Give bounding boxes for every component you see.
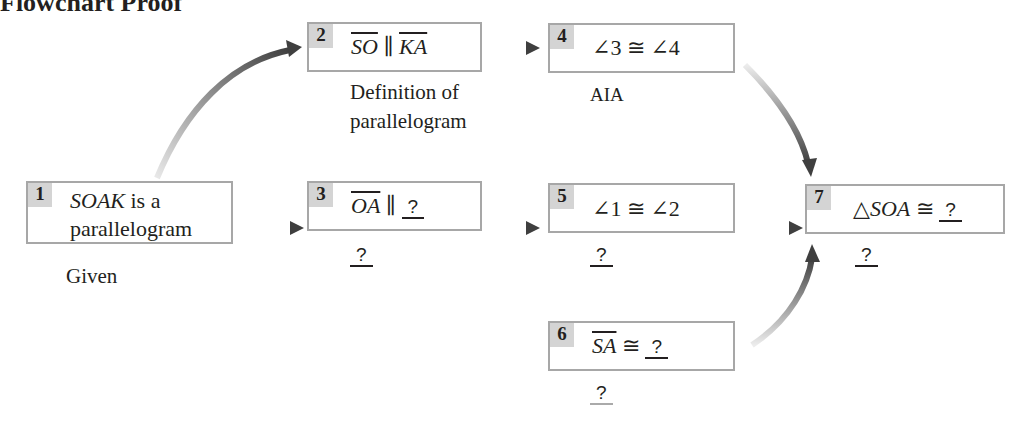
node-number: 2 [309,24,333,48]
node-number: 5 [550,185,574,209]
reason-blank[interactable]: ? [350,245,373,267]
answer-blank[interactable]: ? [939,200,962,222]
node-statement: SO ∥ KA [351,34,427,60]
node-6: 6 SA ≅ ? [548,321,735,371]
node-number: 6 [550,323,574,347]
node-number: 4 [550,25,574,49]
node-number: 7 [807,186,831,210]
reason-blank[interactable]: ? [590,245,613,267]
node-7-reason: ? [855,240,878,269]
node-statement: △SOA ≅ ? [853,196,962,222]
node-1: 1 SOAK is a parallelogram [26,181,233,244]
node-2: 2 SO ∥ KA [307,22,482,72]
node-6-reason: ? [590,378,613,407]
node-5-reason: ? [590,240,613,269]
node-4-reason: AIA [590,80,624,109]
reason-blank[interactable]: ? [590,383,613,405]
node-1-reason: Given [66,262,117,291]
node-3-reason: ? [350,240,373,269]
arrow-4-to-7 [745,65,808,163]
node-statement: OA ∥ ? [351,193,424,219]
arrow-6-to-7 [752,258,812,345]
node-number: 1 [28,183,52,207]
node-statement: SOAK is a parallelogram [70,187,192,243]
node-7: 7 △SOA ≅ ? [805,184,1005,234]
node-3: 3 OA ∥ ? [307,181,482,231]
node-statement: ∠3 ≅ ∠4 [592,35,680,61]
reason-blank[interactable]: ? [855,245,878,267]
arrow-1-to-2 [157,50,290,178]
node-2-reason: Definition ofparallelogram [350,78,467,136]
node-5: 5 ∠1 ≅ ∠2 [548,183,735,233]
node-statement: ∠1 ≅ ∠2 [592,196,680,222]
answer-blank[interactable]: ? [402,197,425,219]
node-4: 4 ∠3 ≅ ∠4 [548,23,735,73]
answer-blank[interactable]: ? [645,337,668,359]
node-statement: SA ≅ ? [592,333,668,359]
node-number: 3 [309,183,333,207]
